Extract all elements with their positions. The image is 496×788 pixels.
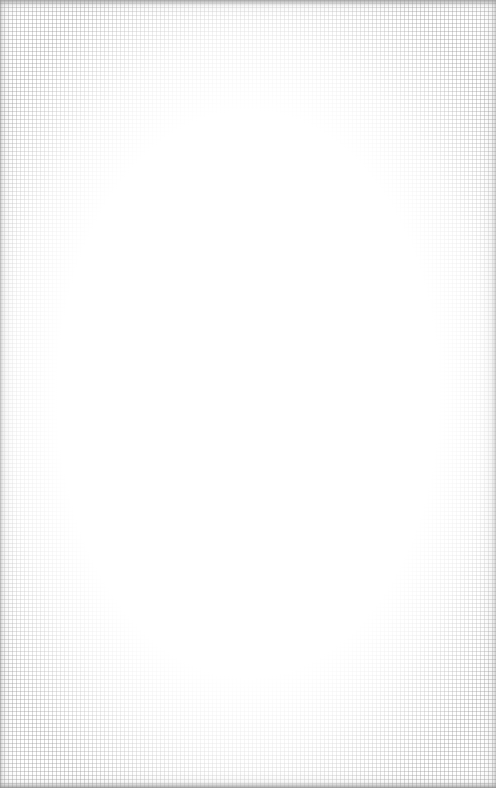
blank-textured-canvas	[0, 0, 496, 788]
bottom-edge-shadow	[0, 782, 496, 788]
center-white-area	[0, 0, 496, 788]
top-edge-shadow	[0, 0, 496, 6]
